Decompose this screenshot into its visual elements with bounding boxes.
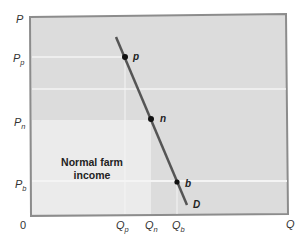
point-b — [174, 179, 179, 184]
y-tick-pp: Pp — [13, 52, 25, 67]
x-axis-label: Q — [286, 218, 295, 230]
point-n-label: n — [160, 113, 166, 124]
x-tick-qn: Qn — [145, 219, 158, 234]
x-tick-qp: Qp — [116, 219, 129, 234]
curve-d-label: D — [193, 199, 200, 210]
y-tick-pn: Pn — [14, 116, 26, 131]
y-axis-label: P — [16, 13, 24, 25]
point-n — [148, 116, 154, 122]
x-tick-qb: Qb — [172, 219, 185, 234]
y-tick-pb: Pb — [15, 178, 27, 193]
demand-diagram: p n b D Normal farm income P Q 0 Pp Pn P… — [0, 0, 305, 241]
origin-label: 0 — [20, 219, 26, 231]
point-p — [122, 54, 128, 60]
point-p-label: p — [132, 51, 139, 62]
region-label-line2: income — [74, 169, 111, 181]
region-label-line1: Normal farm — [61, 156, 123, 168]
point-b-label: b — [185, 178, 191, 189]
